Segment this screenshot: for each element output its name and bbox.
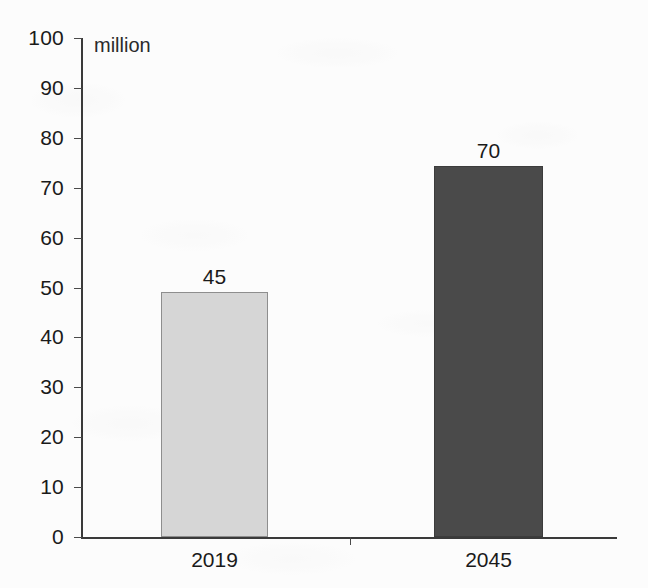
- y-tick-label-70: 70: [40, 176, 64, 200]
- x-axis-line: [81, 537, 617, 539]
- y-tick-label-0: 0: [52, 525, 64, 549]
- y-tick-label-30: 30: [40, 375, 64, 399]
- y-tick-30: 30: [74, 387, 82, 388]
- y-tick-label-20: 20: [40, 425, 64, 449]
- y-tick-label-10: 10: [40, 475, 64, 499]
- y-tick-label-50: 50: [40, 276, 64, 300]
- x-axis-label-2045: 2045: [465, 548, 512, 572]
- bar-2019[interactable]: 45: [161, 292, 268, 538]
- y-tick-70: 70: [74, 188, 82, 189]
- y-tick-label-60: 60: [40, 226, 64, 250]
- bar-chart: million 0 10 20 30 40 50 60 70 80 90: [0, 0, 648, 588]
- y-tick-0: 0: [74, 537, 82, 538]
- y-tick-90: 90: [74, 88, 82, 89]
- y-tick-80: 80: [74, 138, 82, 139]
- y-tick-60: 60: [74, 238, 82, 239]
- y-tick-label-100: 100: [28, 26, 64, 50]
- bar-value-2019: 45: [203, 265, 226, 289]
- x-axis-label-2019: 2019: [191, 548, 238, 572]
- unit-label: million: [94, 34, 151, 57]
- y-tick-label-40: 40: [40, 325, 64, 349]
- y-tick-label-90: 90: [40, 76, 64, 100]
- y-tick-100: 100: [74, 38, 82, 39]
- plot-area: million 0 10 20 30 40 50 60 70 80 90: [82, 38, 617, 537]
- x-axis-mid-tick: [350, 537, 351, 545]
- y-tick-20: 20: [74, 437, 82, 438]
- y-tick-40: 40: [74, 337, 82, 338]
- bar-2045[interactable]: 70: [434, 166, 543, 537]
- y-tick-10: 10: [74, 487, 82, 488]
- y-tick-label-80: 80: [40, 126, 64, 150]
- bar-value-2045: 70: [477, 139, 500, 163]
- y-tick-50: 50: [74, 288, 82, 289]
